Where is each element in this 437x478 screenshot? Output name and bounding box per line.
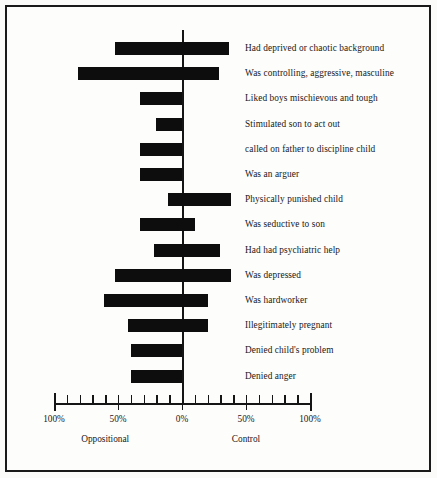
chart-page: Had deprived or chaotic backgroundWas co… xyxy=(0,0,437,478)
bar-row: Denied anger xyxy=(0,370,437,383)
bar-segment-control xyxy=(182,67,219,80)
axis-tick-label: 50% xyxy=(237,414,254,424)
bar-segment-oppositional xyxy=(154,244,182,257)
bar-segment-control xyxy=(182,294,208,307)
bar-category-label: Was an arguer xyxy=(245,168,299,181)
bar-segment-oppositional xyxy=(140,168,182,181)
bar-segment-oppositional xyxy=(115,42,182,55)
bar-category-label: Physically punished child xyxy=(245,193,343,206)
bar-category-label: Had had psychiatric help xyxy=(245,244,340,257)
bar-segment-control xyxy=(182,269,231,282)
bar-row: Had deprived or chaotic background xyxy=(0,42,437,55)
bar-segment-control xyxy=(182,218,195,231)
bar-segment-control xyxy=(182,193,231,206)
bar-row: Was an arguer xyxy=(0,168,437,181)
axis-tick xyxy=(169,395,170,404)
bar-row: Illegitimately pregnant xyxy=(0,319,437,332)
axis-tick xyxy=(67,395,68,404)
axis-tick xyxy=(92,395,93,404)
bar-category-label: Had deprived or chaotic background xyxy=(245,42,384,55)
axis-tick xyxy=(297,395,298,404)
axis-tick xyxy=(131,395,132,404)
axis-tick xyxy=(246,395,247,410)
axis-tick xyxy=(208,395,209,404)
axis-tick-label: 0% xyxy=(176,414,188,424)
bar-segment-oppositional xyxy=(156,118,182,131)
bar-row: Was depressed xyxy=(0,269,437,282)
bar-category-label: Denied child's problem xyxy=(245,344,334,357)
bar-segment-oppositional xyxy=(104,294,182,307)
bar-row: Stimulated son to act out xyxy=(0,118,437,131)
bar-segment-oppositional xyxy=(131,344,182,357)
bar-category-label: Stimulated son to act out xyxy=(245,118,340,131)
bar-row: Had had psychiatric help xyxy=(0,244,437,257)
bar-category-label: Was seductive to son xyxy=(245,218,325,231)
bar-row: Liked boys mischievous and tough xyxy=(0,92,437,105)
diverging-bar-chart: Had deprived or chaotic backgroundWas co… xyxy=(0,0,437,478)
axis-tick xyxy=(284,395,285,404)
axis-tick xyxy=(118,395,119,410)
bar-category-label: called on father to discipline child xyxy=(245,143,375,156)
axis-tick xyxy=(156,395,157,404)
bar-segment-oppositional xyxy=(168,193,182,206)
axis-tick xyxy=(233,395,234,404)
bar-segment-control xyxy=(182,319,208,332)
bar-row: Was controlling, aggressive, masculine xyxy=(0,67,437,80)
bar-category-label: Liked boys mischievous and tough xyxy=(245,92,378,105)
bar-category-label: Illegitimately pregnant xyxy=(245,319,332,332)
bar-row: Was hardworker xyxy=(0,294,437,307)
bar-row: Denied child's problem xyxy=(0,344,437,357)
bar-category-label: Was depressed xyxy=(245,269,301,282)
axis-tick-label: 50% xyxy=(109,414,126,424)
bar-category-label: Was hardworker xyxy=(245,294,307,307)
axis-tick xyxy=(220,395,221,404)
axis-tick-label: 100% xyxy=(299,414,321,424)
bar-segment-oppositional xyxy=(115,269,182,282)
bar-segment-oppositional xyxy=(78,67,182,80)
axis-direction-label-control: Control xyxy=(232,434,260,444)
axis-tick xyxy=(80,395,81,404)
bar-segment-oppositional xyxy=(140,143,182,156)
axis-tick xyxy=(144,395,145,404)
bar-row: called on father to discipline child xyxy=(0,143,437,156)
axis-tick xyxy=(195,395,196,404)
bar-segment-oppositional xyxy=(140,92,182,105)
bar-category-label: Denied anger xyxy=(245,370,296,383)
axis-tick xyxy=(310,393,312,411)
bar-segment-control xyxy=(182,42,229,55)
bar-row: Was seductive to son xyxy=(0,218,437,231)
bar-row: Physically punished child xyxy=(0,193,437,206)
axis-tick xyxy=(54,393,56,411)
axis-tick xyxy=(272,395,273,404)
axis-tick-label: 100% xyxy=(43,414,65,424)
axis-direction-label-oppositional: Oppositional xyxy=(81,434,129,444)
bar-category-label: Was controlling, aggressive, masculine xyxy=(245,67,394,80)
bar-segment-oppositional xyxy=(131,370,182,383)
bar-segment-control xyxy=(182,244,220,257)
axis-tick xyxy=(182,395,183,410)
axis-tick xyxy=(259,395,260,404)
bar-segment-oppositional xyxy=(140,218,182,231)
bar-segment-oppositional xyxy=(128,319,182,332)
axis-tick xyxy=(105,395,106,404)
